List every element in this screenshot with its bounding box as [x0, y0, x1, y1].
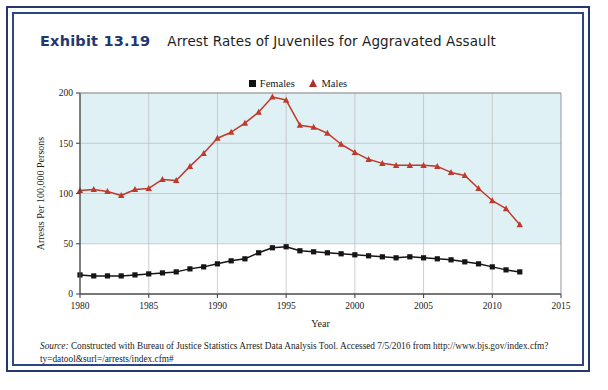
exhibit-frame-inner-border: Exhibit 13.19 Arrest Rates of Juveniles … — [12, 12, 584, 366]
exhibit-content: Exhibit 13.19 Arrest Rates of Juveniles … — [14, 14, 582, 364]
svg-text:50: 50 — [64, 239, 74, 249]
svg-text:2015: 2015 — [552, 301, 571, 311]
svg-text:0: 0 — [68, 289, 73, 299]
source-note: Source: Constructed with Bureau of Justi… — [40, 340, 568, 365]
svg-text:1990: 1990 — [208, 301, 227, 311]
svg-text:2010: 2010 — [483, 301, 502, 311]
chart-plot-area: 0501001502001980198519901995200020052010… — [14, 14, 582, 364]
svg-text:100: 100 — [59, 189, 74, 199]
svg-text:2005: 2005 — [414, 301, 433, 311]
source-text: Constructed with Bureau of Justice Stati… — [40, 341, 548, 364]
svg-text:2000: 2000 — [345, 301, 364, 311]
svg-text:1980: 1980 — [71, 301, 90, 311]
source-label: Source: — [40, 341, 69, 351]
svg-text:Year: Year — [311, 318, 330, 329]
chart-svg: 0501001502001980198519901995200020052010… — [14, 14, 590, 372]
svg-text:1995: 1995 — [277, 301, 296, 311]
svg-text:1985: 1985 — [139, 301, 158, 311]
svg-text:150: 150 — [59, 139, 74, 149]
svg-text:Arrests Per 100,000 Persons: Arrests Per 100,000 Persons — [35, 137, 46, 250]
exhibit-frame: Exhibit 13.19 Arrest Rates of Juveniles … — [6, 6, 590, 372]
svg-text:200: 200 — [59, 88, 74, 98]
